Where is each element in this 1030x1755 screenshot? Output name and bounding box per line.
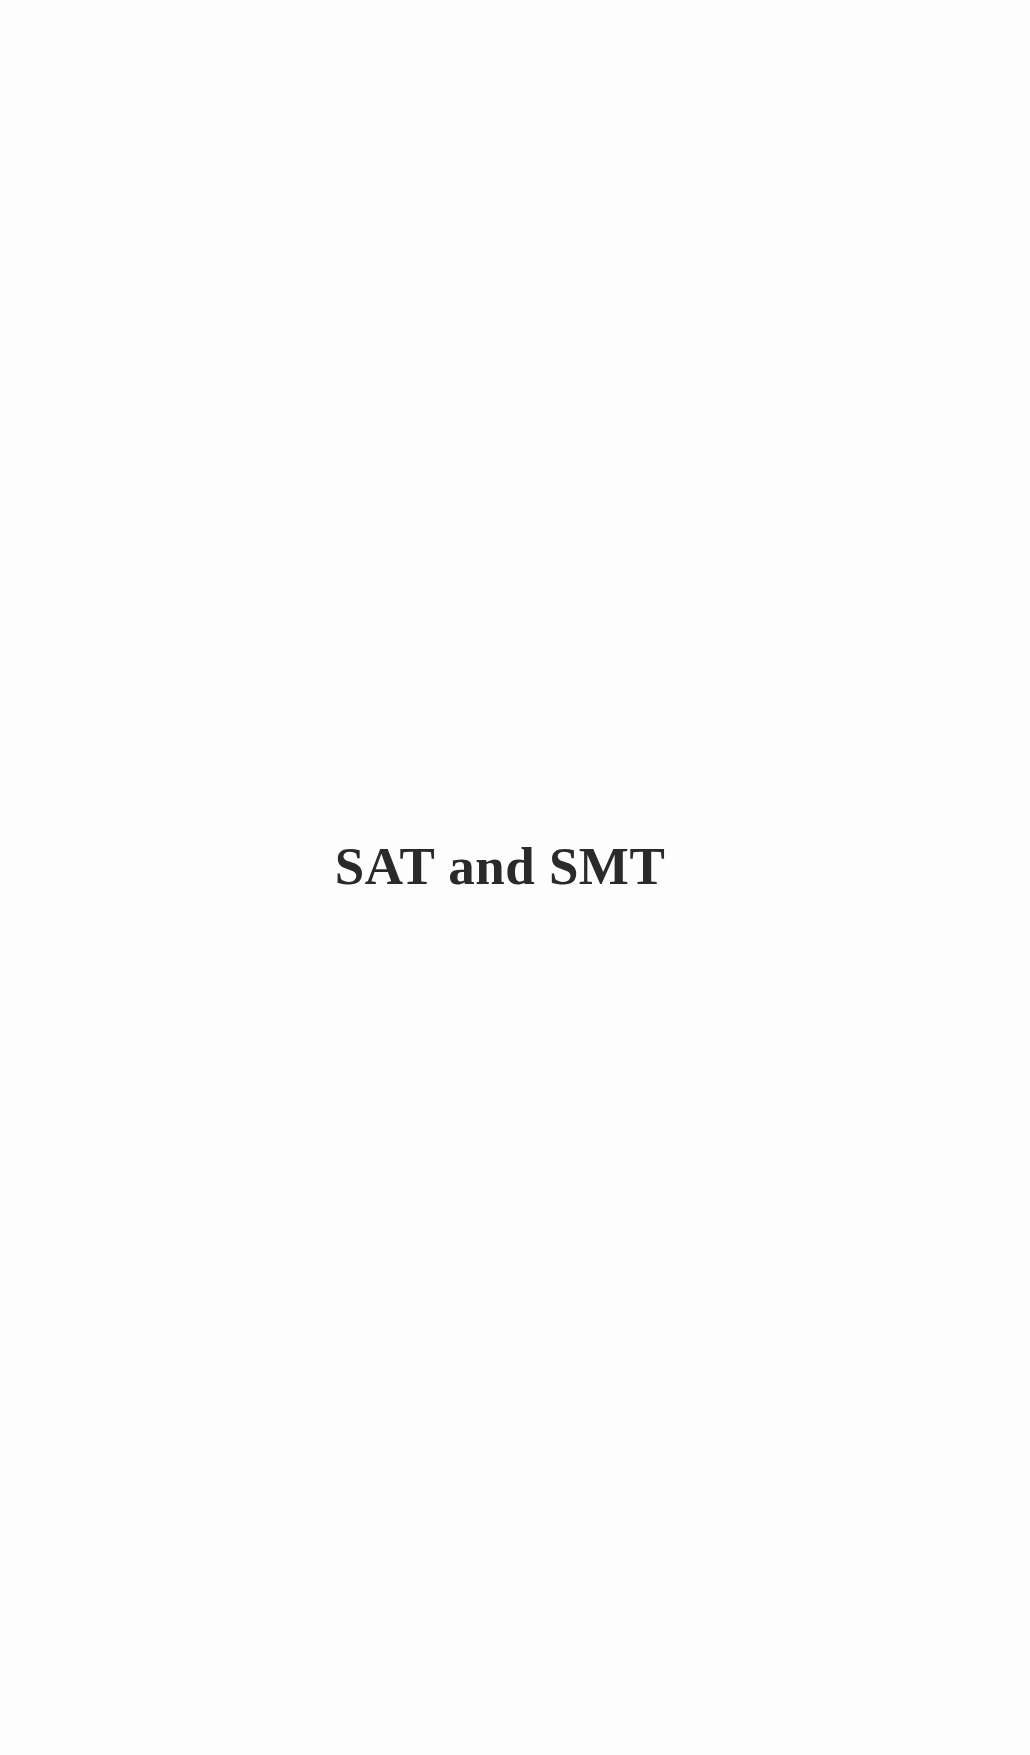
page-title: SAT and SMT bbox=[0, 836, 1000, 896]
document-page: SAT and SMT bbox=[0, 0, 1030, 1755]
